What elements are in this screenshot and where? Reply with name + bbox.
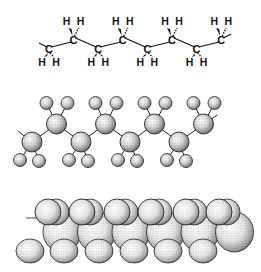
hydrogen-atom-label: H: [52, 56, 60, 68]
carbon-backbone-bonds: [39, 34, 231, 47]
carbon-atom-label: C: [94, 43, 102, 55]
carbon-atom-label: C: [217, 34, 225, 46]
hydrogen-atom-label: H: [112, 15, 120, 27]
structural-formula-panel: CHHCHHCHHCHHCHHCHHCHHCHH: [0, 0, 261, 82]
hydrogen-atom-label: H: [175, 15, 183, 27]
carbon-atom-label: C: [45, 43, 53, 55]
atom-labels: CHHCHHCHHCHHCHHCHHCHHCHH: [38, 15, 232, 68]
carbon-atom-label: C: [70, 34, 78, 46]
hydrogen-atom-label: H: [101, 56, 109, 68]
hydrogen-atom-label: H: [200, 56, 208, 68]
hydrogen-atom-label: H: [63, 15, 71, 27]
space-filling-atoms: [16, 199, 254, 263]
carbon-atom-label: C: [119, 34, 127, 46]
hydrogen-atom-label: H: [224, 15, 232, 27]
ball-stick-bonds: [18, 103, 218, 161]
carbon-atom-label: C: [143, 43, 151, 55]
hydrogen-atom-label: H: [186, 56, 194, 68]
space-filling-panel: [0, 180, 261, 272]
hydrogen-atom-label: H: [210, 15, 218, 27]
hydrogen-atom-label: H: [126, 15, 134, 27]
carbon-atom-label: C: [193, 43, 201, 55]
ball-stick-atoms: [14, 97, 222, 168]
structural-formula-drawing: CHHCHHCHHCHHCHHCHHCHHCHH: [0, 0, 261, 82]
hydrogen-atom-label: H: [137, 56, 145, 68]
ball-and-stick-panel: [0, 85, 261, 180]
hydrogen-atom-label: H: [77, 15, 85, 27]
carbon-atom-label: C: [168, 34, 176, 46]
hydrogen-atom-label: H: [161, 15, 169, 27]
hydrogen-atom-label: H: [87, 56, 95, 68]
ball-and-stick-drawing: [0, 85, 261, 180]
space-filling-drawing: [0, 180, 261, 272]
hydrogen-atom-label: H: [151, 56, 159, 68]
hydrogen-atom-label: H: [38, 56, 46, 68]
